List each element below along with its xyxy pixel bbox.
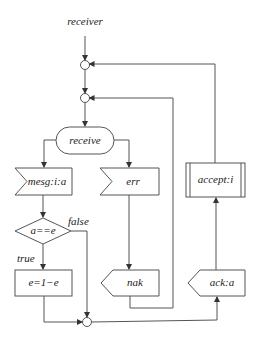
edge-false-to-merge — [71, 231, 87, 317]
accept-procedure-node: accept:i — [186, 163, 245, 197]
assign-node: e=1−e — [15, 270, 72, 296]
diagram-title: receiver — [67, 15, 103, 27]
junction-merge — [83, 318, 92, 327]
err-label: err — [126, 175, 140, 187]
nak-label: nak — [127, 276, 144, 288]
decision-node: a==e — [15, 218, 71, 244]
receiver-flowchart: receiver receive mesg:i:a err a==e false… — [0, 0, 260, 342]
nak-output-node: nak — [101, 270, 159, 296]
receive-label: receive — [69, 134, 100, 146]
false-label: false — [68, 215, 89, 227]
assign-label: e=1−e — [28, 276, 58, 288]
edge-merge-to-ack — [92, 297, 218, 322]
decision-label: a==e — [30, 224, 55, 236]
mesg-label: mesg:i:a — [28, 175, 67, 187]
edge-receive-to-mesg — [44, 140, 56, 167]
receive-node: receive — [56, 127, 114, 154]
ack-output-node: ack:a — [188, 270, 245, 296]
true-label: true — [17, 252, 35, 264]
edge-assign-to-merge — [44, 296, 82, 322]
mesg-input-node: mesg:i:a — [15, 168, 72, 195]
edge-receive-to-err — [114, 140, 129, 167]
ack-label: ack:a — [210, 276, 235, 288]
junction-outer-loop — [81, 61, 90, 70]
junction-inner-loop — [81, 94, 90, 103]
err-input-node: err — [100, 168, 159, 195]
accept-label: accept:i — [198, 173, 233, 185]
